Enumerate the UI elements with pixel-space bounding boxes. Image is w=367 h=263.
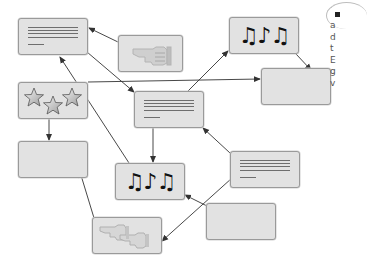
side-text-line: d bbox=[330, 32, 360, 44]
node-j-empty[interactable] bbox=[206, 203, 276, 240]
side-text-line: a bbox=[330, 20, 360, 32]
arrow-b-to-a bbox=[89, 28, 118, 42]
side-text-line: g bbox=[330, 66, 360, 78]
pointing-hands-icon bbox=[93, 218, 161, 253]
node-b-pointing-hand[interactable] bbox=[118, 35, 183, 72]
music-notes-icon: ♫♪♫ bbox=[230, 18, 298, 53]
node-h-music[interactable]: ♫♪♫ bbox=[115, 163, 185, 200]
node-g-empty[interactable] bbox=[18, 141, 88, 178]
pointing-hand-icon bbox=[119, 36, 182, 71]
side-text-column: a d t E g v bbox=[330, 20, 360, 89]
arrow-k-to-g bbox=[80, 172, 94, 218]
arrow-f-to-c bbox=[188, 51, 228, 91]
node-k-pointing-hands[interactable] bbox=[92, 217, 162, 254]
node-e-stars[interactable] bbox=[18, 82, 88, 119]
side-text-line: t bbox=[330, 43, 360, 55]
node-f-text-document[interactable] bbox=[134, 91, 204, 128]
side-text-line: E bbox=[330, 55, 360, 67]
stars-icon bbox=[19, 83, 87, 118]
text-lines-icon bbox=[28, 27, 78, 46]
text-lines-icon bbox=[144, 100, 194, 119]
arrow-e-to-d bbox=[88, 79, 260, 82]
side-text-line: v bbox=[330, 78, 360, 90]
arrow-i-to-f bbox=[203, 128, 230, 153]
node-c-music[interactable]: ♫♪♫ bbox=[229, 17, 299, 54]
text-lines-icon bbox=[240, 160, 290, 179]
node-i-text-document[interactable] bbox=[230, 151, 300, 188]
node-d-empty[interactable] bbox=[261, 68, 331, 105]
music-notes-icon: ♫♪♫ bbox=[116, 164, 184, 199]
bullet-marker-icon bbox=[335, 12, 340, 17]
node-a-text-document[interactable] bbox=[18, 18, 88, 55]
